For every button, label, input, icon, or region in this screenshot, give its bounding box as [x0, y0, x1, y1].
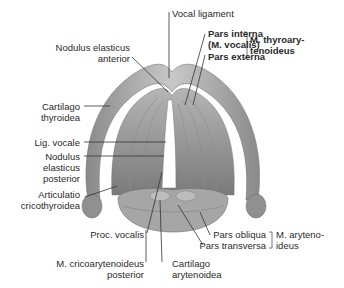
label-articulatio-cricothyroidea-1: Articulatio — [10, 189, 80, 200]
label-cartilago-thyroidea-1: Cartilago — [10, 101, 80, 112]
label-m-cricoarytenoideus-posterior-2: posterior — [40, 269, 144, 280]
label-nodulus-elasticus-anterior-2: anterior — [52, 53, 130, 64]
label-lig-vocale: Lig. vocale — [10, 137, 80, 148]
label-cartilago-arytenoidea-1: Cartilago — [172, 258, 210, 269]
label-m-arytenoideus-2: ideus — [276, 240, 299, 251]
label-pars-obliqua: Pars obliqua — [196, 229, 266, 240]
label-nodulus-elasticus-posterior-2: elasticus — [10, 162, 80, 173]
label-m-thyroarytenoideus-1: M. thyroary- — [250, 34, 304, 45]
label-cartilago-arytenoidea-2: arytenoidea — [172, 269, 222, 280]
cricoid-base — [118, 188, 228, 232]
label-vocal-ligament: Vocal ligament — [172, 8, 234, 19]
label-m-arytenoideus-1: M. aryteno- — [276, 229, 324, 240]
left-horn — [82, 194, 102, 218]
label-nodulus-elasticus-anterior-1: Nodulus elasticus — [52, 42, 130, 53]
label-m-thyroarytenoideus-2: tenoideus — [250, 45, 295, 56]
label-cartilago-thyroidea-2: thyroidea — [10, 112, 80, 123]
label-nodulus-elasticus-posterior-1: Nodulus — [10, 151, 80, 162]
label-proc-vocalis: Proc. vocalis — [60, 229, 144, 240]
label-articulatio-cricothyroidea-2: cricothyroidea — [10, 200, 80, 211]
label-nodulus-elasticus-posterior-3: posterior — [10, 173, 80, 184]
right-horn — [246, 194, 266, 218]
label-pars-transversa: Pars transversa — [186, 240, 266, 251]
label-m-cricoarytenoideus-posterior-1: M. cricoarytenoideus — [40, 258, 144, 269]
